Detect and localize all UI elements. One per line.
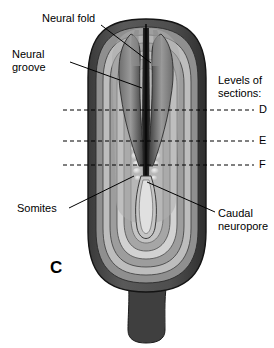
label-neural-groove-line1: Neural xyxy=(12,48,44,60)
caudal-neuropore xyxy=(136,176,157,239)
label-section-level-e: E xyxy=(259,134,266,147)
panel-letter: C xyxy=(50,258,62,278)
label-caudal-neuropore: Caudalneuropore xyxy=(218,207,268,233)
label-neural-fold: Neural fold xyxy=(42,12,95,25)
label-neural-groove-line2: groove xyxy=(12,61,46,73)
label-caudal-line1: Caudal xyxy=(218,207,253,219)
label-levels-of-sections: Levels ofsections: xyxy=(218,74,262,100)
label-section-level-f: F xyxy=(259,158,266,171)
label-section-level-d: D xyxy=(259,103,267,116)
label-levels-line2: sections: xyxy=(218,87,261,99)
label-neural-groove: Neuralgroove xyxy=(12,48,46,74)
label-caudal-line2: neuropore xyxy=(218,220,268,232)
label-somites: Somites xyxy=(17,202,57,215)
label-levels-line1: Levels of xyxy=(218,74,262,86)
